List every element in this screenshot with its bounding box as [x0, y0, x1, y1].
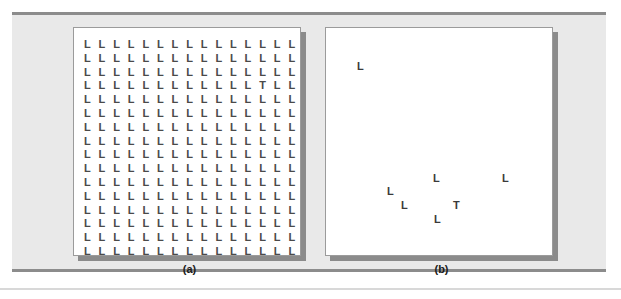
- distractor-letter-l: L: [157, 122, 164, 133]
- distractor-letter-l: L: [288, 67, 295, 78]
- distractor-letter-l: L: [157, 177, 164, 188]
- distractor-letter-l: L: [230, 136, 237, 147]
- distractor-letter-l: L: [186, 136, 193, 147]
- distractor-letter-l: L: [99, 246, 106, 256]
- distractor-letter-l: L: [288, 163, 295, 174]
- distractor-letter-l: L: [245, 53, 252, 64]
- distractor-letter-l: L: [230, 163, 237, 174]
- distractor-letter-l: L: [288, 246, 295, 256]
- distractor-letter-l: L: [172, 67, 179, 78]
- distractor-letter-l: L: [215, 163, 222, 174]
- distractor-letter-l: L: [172, 94, 179, 105]
- distractor-letter-l: L: [259, 191, 266, 202]
- distractor-letter-l: L: [142, 191, 149, 202]
- distractor-letter-l: L: [142, 39, 149, 50]
- distractor-letter-l: L: [186, 108, 193, 119]
- distractor-letter-l: L: [84, 39, 91, 50]
- distractor-letter-l: L: [157, 218, 164, 229]
- distractor-letter-l: L: [99, 218, 106, 229]
- distractor-letter-l: L: [142, 94, 149, 105]
- distractor-letter-l: L: [142, 177, 149, 188]
- distractor-letter-l: L: [288, 108, 295, 119]
- distractor-letter-l: L: [274, 136, 281, 147]
- distractor-letter-l: L: [215, 149, 222, 160]
- distractor-letter-l: L: [99, 53, 106, 64]
- distractor-letter-l: L: [274, 94, 281, 105]
- distractor-letter-l: L: [142, 67, 149, 78]
- distractor-letter-l: L: [113, 122, 120, 133]
- distractor-letter-l: L: [84, 122, 91, 133]
- distractor-letter-l: L: [288, 94, 295, 105]
- distractor-letter-l: L: [245, 191, 252, 202]
- distractor-letter-l: L: [84, 80, 91, 91]
- distractor-letter-l: L: [215, 205, 222, 216]
- distractor-letter-l: L: [274, 122, 281, 133]
- distractor-letter-l: L: [201, 53, 208, 64]
- distractor-letter-l: L: [128, 163, 135, 174]
- distractor-letter-l: L: [215, 177, 222, 188]
- distractor-letter-l: L: [113, 53, 120, 64]
- distractor-letter-l: L: [128, 53, 135, 64]
- distractor-letter-l: L: [201, 191, 208, 202]
- distractor-letter-l: L: [245, 232, 252, 243]
- distractor-letter-l: L: [113, 80, 120, 91]
- panel-b-stage: LLLLLTL: [325, 27, 553, 256]
- distractor-letter-l: L: [157, 163, 164, 174]
- distractor-letter-l: L: [215, 122, 222, 133]
- distractor-letter-l: L: [215, 246, 222, 256]
- distractor-letter-l: L: [245, 149, 252, 160]
- distractor-letter-l: L: [142, 122, 149, 133]
- distractor-letter-l: L: [230, 94, 237, 105]
- distractor-letter-l: L: [245, 218, 252, 229]
- distractor-letter-l: L: [128, 205, 135, 216]
- distractor-letter-l: L: [128, 80, 135, 91]
- distractor-letter-l: L: [274, 53, 281, 64]
- distractor-letter-l: L: [99, 191, 106, 202]
- distractor-letter-l: L: [84, 246, 91, 256]
- distractor-letter-l: L: [128, 67, 135, 78]
- distractor-letter-l: L: [230, 108, 237, 119]
- distractor-letter-l: L: [230, 149, 237, 160]
- distractor-letter-l: L: [157, 136, 164, 147]
- distractor-letter-l: L: [201, 177, 208, 188]
- distractor-letter-l: L: [288, 122, 295, 133]
- distractor-letter-l: L: [230, 232, 237, 243]
- distractor-letter-l: L: [113, 163, 120, 174]
- distractor-letter-l: L: [245, 205, 252, 216]
- distractor-letter-l: L: [172, 39, 179, 50]
- distractor-letter-l: L: [128, 177, 135, 188]
- distractor-letter-l: L: [274, 218, 281, 229]
- distractor-letter-l: L: [128, 191, 135, 202]
- distractor-letter-l: L: [201, 218, 208, 229]
- distractor-letter-l: L: [113, 94, 120, 105]
- distractor-letter-l: L: [113, 108, 120, 119]
- distractor-letter-l: L: [245, 108, 252, 119]
- distractor-letter-l: L: [172, 205, 179, 216]
- distractor-letter-l: L: [274, 163, 281, 174]
- distractor-letter-l: L: [230, 177, 237, 188]
- distractor-letter-l: L: [84, 53, 91, 64]
- distractor-letter-l: L: [84, 163, 91, 174]
- distractor-letter-l: L: [230, 67, 237, 78]
- distractor-letter-l: L: [274, 232, 281, 243]
- distractor-letter-l: L: [259, 136, 266, 147]
- distractor-letter-l: L: [274, 246, 281, 256]
- distractor-letter-l: L: [201, 108, 208, 119]
- distractor-letter-l: L: [245, 246, 252, 256]
- distractor-letter-l: L: [259, 108, 266, 119]
- distractor-letter-l: L: [274, 39, 281, 50]
- distractor-letter-l: L: [230, 246, 237, 256]
- distractor-letter-l: L: [157, 232, 164, 243]
- distractor-letter-l: L: [172, 246, 179, 256]
- distractor-letter-l: L: [288, 149, 295, 160]
- distractor-letter-l: L: [99, 39, 106, 50]
- distractor-letter-l: L: [172, 122, 179, 133]
- distractor-letter-l: L: [172, 218, 179, 229]
- distractor-letter-l: L: [201, 205, 208, 216]
- panel-b-caption: (b): [325, 263, 558, 275]
- distractor-letter-l: L: [113, 232, 120, 243]
- distractor-letter-l: L: [201, 80, 208, 91]
- distractor-letter-l: L: [99, 149, 106, 160]
- distractor-letter-l: L: [99, 108, 106, 119]
- distractor-letter-l: L: [245, 136, 252, 147]
